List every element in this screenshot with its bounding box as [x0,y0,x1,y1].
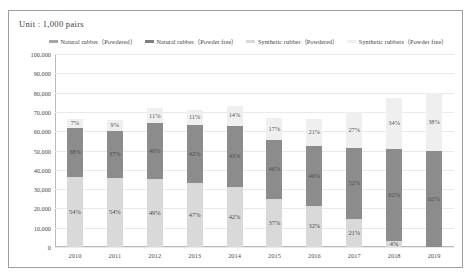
x-axis-tick-label: 2019 [426,252,442,259]
legend-swatch-icon [347,40,356,43]
y-axis-tick-label: 20,000 [34,205,51,212]
unit-note: Unit : 1,000 pairs [19,19,84,29]
legend-swatch-icon [246,40,255,43]
bar-column-2017[interactable]: 27%52%21%2017 [346,112,362,247]
gridline [55,247,454,248]
bar-segment: 47% [187,183,203,247]
bar-segment: 42% [187,125,203,183]
bar-column-2018[interactable]: 34%62%4%2018 [386,98,402,247]
legend-item-natural_powdered[interactable]: Natural rubber（Powdered） [49,37,136,46]
bar-segment: 27% [346,112,362,148]
bar-segment: 49% [147,179,163,247]
x-axis-tick-label: 2015 [266,252,282,259]
gridline [55,54,454,55]
bar-segment: 7% [67,119,83,128]
bar-column-2019[interactable]: 38%62%2019 [426,93,442,247]
bar-segment: 34% [386,98,402,149]
bar-column-2012[interactable]: 11%40%49%2012 [147,108,163,247]
y-axis-tick-label: 100,000 [31,51,51,58]
bar-segment: 43% [227,126,243,187]
y-axis-tick-label: 30,000 [34,186,51,193]
bar-segment: 11% [147,108,163,123]
x-axis-tick-label: 2016 [306,252,322,259]
bar-segment: 37% [107,131,123,178]
y-axis-tick-label: 40,000 [34,166,51,173]
plot-area: 100,00090,00080,00070,00060,00050,00040,… [55,54,454,247]
bar-segment: 46% [306,146,322,205]
bar-column-2013[interactable]: 11%42%47%2013 [187,110,203,247]
bar-column-2011[interactable]: 9%37%54%2011 [107,120,123,247]
bar-segment: 37% [266,199,282,247]
bar-segment: 21% [306,119,322,146]
x-axis-tick-label: 2011 [107,252,123,259]
x-axis-tick-label: 2012 [147,252,163,259]
legend-label: Natural rubber（Powdered） [61,37,136,46]
y-axis-tick-label: 60,000 [34,128,51,135]
y-axis-tick-label: 80,000 [34,89,51,96]
x-axis-tick-label: 2013 [187,252,203,259]
bar-segment: 11% [187,110,203,125]
bar-segment: 54% [67,177,83,247]
bar-segment: 14% [227,106,243,126]
bar-column-2014[interactable]: 14%43%42%2014 [227,104,243,247]
x-axis-tick-label: 2018 [386,252,402,259]
bar-segment: 40% [147,123,163,179]
bar-column-2010[interactable]: 7%38%54%2010 [67,118,83,247]
bar-segment: 9% [107,120,123,131]
bar-segment: 17% [266,118,282,140]
bar-segment: 46% [266,140,282,199]
y-axis-tick-label: 10,000 [34,224,51,231]
bar-segment: 52% [346,148,362,218]
legend-item-natural_powder_free[interactable]: Natural rubber（Powder free） [145,37,238,46]
legend-label: Synthetic rubber（Powdered） [258,37,338,46]
bar-column-2015[interactable]: 17%46%37%2015 [266,118,282,247]
y-axis-tick-label: 70,000 [34,108,51,115]
gridline [55,93,454,94]
legend-item-synthetic_powder_free[interactable]: Synthetic rubbers（Powder free） [347,37,447,46]
x-axis-tick-label: 2010 [67,252,83,259]
x-axis-tick-label: 2014 [227,252,243,259]
bar-segment: 21% [346,219,362,247]
legend-label: Synthetic rubbers（Powder free） [359,37,448,46]
y-axis-tick-label: 50,000 [34,147,51,154]
legend-item-synthetic_powdered[interactable]: Synthetic rubber（Powdered） [246,37,338,46]
x-axis-tick-label: 2017 [346,252,362,259]
bar-segment: 38% [67,128,83,177]
chart-panel: Unit : 1,000 pairs Natural rubber（Powder… [8,10,463,268]
y-axis-tick-label: 90,000 [34,70,51,77]
bar-segment: 32% [306,206,322,247]
bar-segment: 38% [426,93,442,152]
bar-segment: 62% [386,149,402,241]
bar-segment: 4% [386,241,402,247]
bar-column-2016[interactable]: 21%46%32%2016 [306,118,322,247]
y-axis-tick-label: 0 [48,244,51,251]
legend-swatch-icon [145,40,154,43]
chart-legend: Natural rubber（Powdered）Natural rubber（P… [49,37,456,46]
bar-segment: 62% [426,151,442,247]
bar-segment: 54% [107,178,123,247]
gridline [55,73,454,74]
bar-segment: 42% [227,187,243,247]
legend-swatch-icon [49,40,58,43]
legend-label: Natural rubber（Powder free） [156,37,237,46]
